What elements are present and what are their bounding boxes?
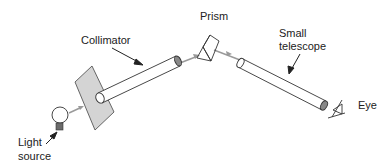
label-telescope-line2: telescope bbox=[279, 40, 326, 52]
diagram-canvas bbox=[0, 0, 390, 167]
light-bulb-icon bbox=[52, 107, 68, 130]
spectroscope-diagram: Collimator Prism Small telescope Eye Lig… bbox=[0, 0, 390, 167]
label-light-line2: source bbox=[18, 150, 51, 162]
prism-icon bbox=[197, 35, 219, 61]
telescope-tube bbox=[236, 57, 329, 111]
label-eye: Eye bbox=[358, 99, 377, 111]
label-telescope-line1: Small bbox=[279, 27, 307, 39]
eye-icon bbox=[328, 100, 345, 118]
label-prism: Prism bbox=[200, 10, 228, 22]
label-collimator: Collimator bbox=[81, 34, 131, 46]
label-light-line1: Light bbox=[18, 136, 42, 148]
